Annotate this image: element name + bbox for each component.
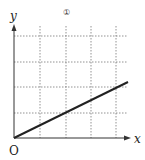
origin-label: O: [9, 144, 19, 158]
x-axis: [14, 136, 131, 141]
x-arrow-icon: [124, 136, 131, 141]
data-line: [14, 82, 128, 138]
x-axis-label: x: [134, 132, 141, 146]
figure-number: ①: [63, 8, 70, 17]
grid: [14, 26, 128, 138]
y-axis: [12, 24, 17, 138]
y-axis-label: y: [9, 9, 17, 23]
y-arrow-icon: [12, 24, 17, 31]
graph: x y O ①: [0, 0, 145, 160]
